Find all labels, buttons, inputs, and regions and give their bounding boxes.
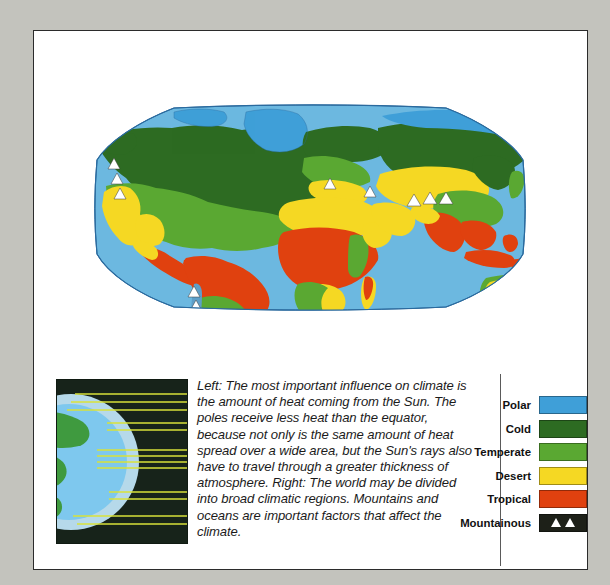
world-climate-map [34,46,586,364]
legend-label-tropical: Tropical [487,493,531,505]
region-australia-north-tropical [520,270,542,284]
map-svg [34,46,586,364]
region-new-guinea-tropical [510,258,542,276]
legend-label-temperate: Temperate [474,446,531,458]
triangle-icon-right [565,518,575,527]
legend-item-mountainous: Mountainous [409,514,587,532]
page-root: Left: The most important influence on cl… [0,0,610,585]
region-south-africa-tip [310,310,340,324]
legend-swatch-tropical [539,490,587,508]
legend-item-polar: Polar [409,396,587,414]
legend-item-tropical: Tropical [409,490,587,508]
figure-frame: Left: The most important influence on cl… [33,30,588,570]
legend-item-temperate: Temperate [409,443,587,461]
legend-swatch-cold [539,420,587,438]
region-australia-desert [484,279,548,319]
region-south-america-tip [202,351,216,362]
region-tasmania [525,321,535,329]
region-alaska-cold [94,132,137,154]
legend-swatch-temperate [539,443,587,461]
lower-band: Left: The most important influence on cl… [34,374,586,566]
legend-label-polar: Polar [503,399,532,411]
legend-label-cold: Cold [506,423,531,435]
triangle-icon-left [551,518,561,527]
legend-swatch-polar [539,396,587,414]
region-patagonia-desert [201,313,219,358]
legend-item-cold: Cold [409,420,587,438]
legend-label-mountainous: Mountainous [460,517,531,529]
legend-swatch-desert [539,467,587,485]
mountain-triangles-icon [539,514,587,532]
legend-item-desert: Desert [409,467,587,485]
legend-label-desert: Desert [496,470,531,482]
sun-rays-diagram [56,379,188,544]
diagram-svg [57,380,187,543]
climate-legend: Polar Cold Temperate Desert Tropical [409,396,587,538]
region-new-zealand [556,290,569,324]
